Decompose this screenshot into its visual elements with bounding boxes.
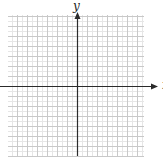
- coordinate-plane: [0, 0, 163, 165]
- x-axis-arrow-icon: [151, 84, 158, 90]
- major-grid-lines: [8, 15, 144, 157]
- x-axis-label: x: [162, 79, 163, 91]
- y-axis-label: y: [73, 0, 80, 12]
- y-axis-arrow-icon: [75, 12, 81, 19]
